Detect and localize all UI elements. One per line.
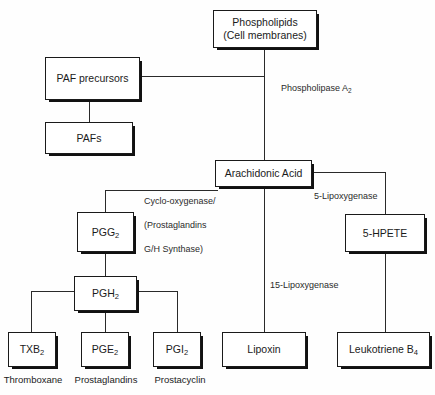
- node-txb2[interactable]: TXB2: [8, 332, 56, 367]
- node-lipoxin[interactable]: Lipoxin: [222, 332, 306, 367]
- enzyme-cyclooxygenase-line1: Cyclo-oxygenase/: [144, 196, 216, 206]
- node-pgh2-sub: 2: [115, 292, 119, 301]
- connector-paf-precursors-to-pafs: [89, 100, 90, 122]
- connector-hpete-to-leukotriene: [385, 252, 386, 332]
- node-pge2-sub: 2: [114, 348, 118, 357]
- enzyme-label-cyclooxygenase: Cyclo-oxygenase/ (Prostaglandins G/H Syn…: [134, 183, 216, 267]
- enzyme-label-15-lipoxygenase: 15-Lipoxygenase: [270, 279, 339, 291]
- node-pgh2[interactable]: PGH2: [74, 276, 137, 311]
- node-arachidonic-acid-label: Arachidonic Acid: [223, 167, 305, 180]
- node-pge2[interactable]: PGE2: [81, 332, 129, 367]
- node-txb2-sub: 2: [40, 348, 44, 357]
- node-txb2-base: TXB: [20, 343, 40, 355]
- enzyme-label-phospholipase-a2: Phospholipase A2: [271, 70, 352, 106]
- node-leukotriene-b4[interactable]: Leukotriene B4: [337, 332, 430, 367]
- connector-bus-down-to-hpete: [385, 172, 386, 214]
- enzyme-cyclooxygenase-line2: (Prostaglandins: [144, 220, 207, 230]
- caption-prostaglandins: Prostaglandins: [68, 374, 144, 386]
- caption-thromboxane: Thromboxane: [0, 374, 66, 386]
- node-pgh2-base: PGH: [92, 287, 115, 299]
- node-pafs-label: PAFs: [75, 132, 104, 145]
- node-pgi2-sub: 2: [184, 348, 188, 357]
- node-leukotriene-b4-base: Leukotriene B: [349, 343, 414, 355]
- connector-phospholipids-to-arachidonic: [264, 48, 265, 160]
- connector-arachidonic-to-lipoxin: [264, 184, 265, 332]
- node-pgg2-sub: 2: [115, 231, 119, 240]
- node-5-hpete-label: 5-HPETE: [361, 227, 409, 240]
- connector-bus-down-to-pgg2: [105, 190, 106, 212]
- node-arachidonic-acid[interactable]: Arachidonic Acid: [215, 160, 312, 187]
- connector-drop-to-pgi2: [177, 291, 178, 332]
- node-phospholipids-line2: (Cell membranes): [223, 29, 306, 41]
- node-pgg2-base: PGG: [92, 226, 115, 238]
- connector-pgg2-to-pgh2: [105, 252, 106, 276]
- node-pge2-base: PGE: [92, 343, 114, 355]
- node-pafs[interactable]: PAFs: [45, 122, 133, 154]
- node-leukotriene-b4-sub: 4: [414, 348, 418, 357]
- caption-prostacyclin: Prostacyclin: [146, 374, 214, 386]
- connector-drop-to-txb2: [31, 291, 32, 332]
- enzyme-phospholipase-sub: 2: [348, 87, 352, 94]
- node-pgi2[interactable]: PGI2: [153, 332, 201, 367]
- pathway-diagram: Phospholipids (Cell membranes) PAF precu…: [0, 0, 435, 395]
- node-5-hpete[interactable]: 5-HPETE: [345, 214, 425, 252]
- node-lipoxin-label: Lipoxin: [245, 343, 282, 356]
- connector-arachidonic-right-bus: [312, 172, 385, 173]
- node-paf-precursors-label: PAF precursors: [54, 72, 130, 85]
- enzyme-label-5-lipoxygenase: 5-Lipoxygenase: [314, 190, 378, 202]
- connector-pgh2-to-pge2: [105, 311, 106, 332]
- node-phospholipids-line1: Phospholipids: [232, 16, 297, 28]
- enzyme-phospholipase-base: Phospholipase A: [281, 83, 348, 93]
- connector-pgh2-left-stub: [31, 291, 74, 292]
- node-paf-precursors[interactable]: PAF precursors: [45, 57, 140, 100]
- node-pgi2-base: PGI: [166, 343, 184, 355]
- node-pgg2[interactable]: PGG2: [77, 212, 134, 252]
- connector-pgh2-right-stub: [137, 291, 177, 292]
- enzyme-cyclooxygenase-line3: G/H Synthase): [144, 244, 203, 254]
- connector-paf-precursors-to-spine: [140, 76, 264, 77]
- node-phospholipids[interactable]: Phospholipids (Cell membranes): [213, 10, 317, 48]
